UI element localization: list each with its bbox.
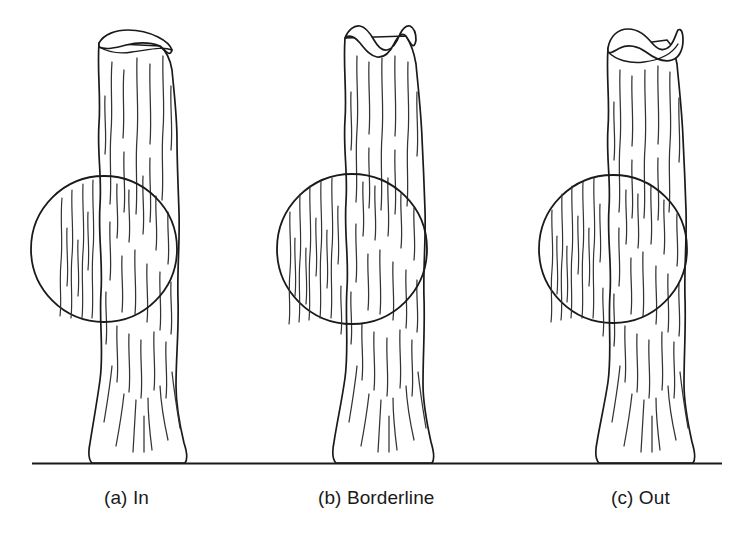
caption-panel-b: (b) Borderline [318,487,435,509]
caption-row: (a) In (b) Borderline (c) Out [0,487,743,517]
caption-panel-c: (c) Out [611,487,670,509]
caption-panel-a: (a) In [104,487,149,509]
figure-container: (a) In (b) Borderline (c) Out [0,0,743,535]
trunk-outline-b [333,36,434,463]
point-sampling-illustration [0,0,743,535]
